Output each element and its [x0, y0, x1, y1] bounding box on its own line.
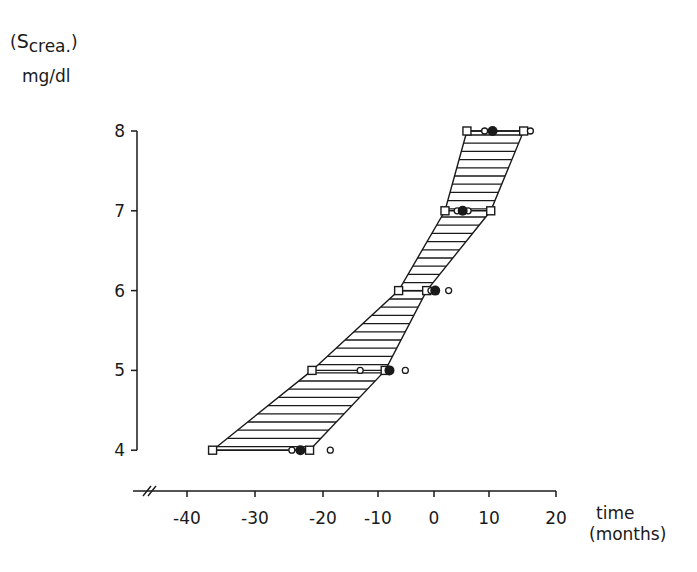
filled-circle-marker	[384, 365, 394, 375]
axes: 45678-40-30-20-1001020	[114, 121, 567, 528]
open-square-marker	[463, 127, 471, 135]
x-axis-label: time	[596, 503, 634, 523]
y-tick-label: 7	[114, 201, 125, 221]
open-square-marker	[306, 446, 314, 454]
x-tick-label: -40	[173, 508, 201, 528]
open-square-marker	[209, 446, 217, 454]
open-square-marker	[487, 207, 495, 215]
open-circle-marker	[289, 447, 295, 453]
filled-circle-marker	[430, 286, 440, 296]
x-tick-label: -10	[364, 508, 392, 528]
y-tick-label: 8	[114, 121, 125, 141]
y-tick-label: 6	[114, 281, 125, 301]
open-circle-marker	[402, 367, 408, 373]
x-tick-label: -30	[241, 508, 269, 528]
x-tick-label: -20	[309, 508, 337, 528]
open-circle-marker	[482, 128, 488, 134]
open-square-marker	[308, 366, 316, 374]
open-square-marker	[395, 287, 403, 295]
chart-canvas: 45678-40-30-20-1001020	[0, 0, 697, 572]
hatched-band	[150, 131, 560, 450]
x-axis-unit: (months)	[589, 524, 666, 544]
open-square-marker	[520, 127, 528, 135]
open-circle-marker	[357, 367, 363, 373]
x-tick-label: 10	[478, 508, 500, 528]
x-tick-label: 20	[545, 508, 567, 528]
filled-circle-marker	[488, 126, 498, 136]
open-square-marker	[441, 207, 449, 215]
open-circle-marker	[327, 447, 333, 453]
band-outline	[213, 131, 524, 450]
filled-circle-marker	[295, 445, 305, 455]
x-tick-label: 0	[429, 508, 440, 528]
open-circle-marker	[527, 128, 533, 134]
y-tick-label: 4	[114, 440, 125, 460]
hatch-lines	[150, 135, 560, 447]
filled-circle-marker	[458, 206, 468, 216]
y-axis-unit: mg/dl	[22, 66, 71, 86]
y-tick-label: 5	[114, 360, 125, 380]
y-axis-label: (Screa.)	[10, 30, 78, 52]
open-circle-marker	[446, 288, 452, 294]
